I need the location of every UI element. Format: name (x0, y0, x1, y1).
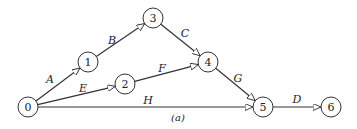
diagram-canvas: ABCEFGHD 0123456 (a) (0, 0, 357, 129)
node-6: 6 (321, 97, 341, 117)
node-4: 4 (198, 52, 218, 72)
edge-label: E (78, 82, 87, 95)
node-5: 5 (253, 97, 273, 117)
edge-label: D (292, 93, 302, 106)
network-diagram: ABCEFGHD 0123456 (a) (0, 0, 357, 129)
node-label: 1 (85, 56, 92, 69)
node-1: 1 (78, 52, 98, 72)
edge-e (38, 86, 116, 104)
node-label: 5 (260, 101, 267, 114)
diagram-caption: (a) (171, 112, 185, 123)
node-0: 0 (18, 97, 38, 117)
node-label: 0 (25, 101, 32, 114)
node-label: 4 (205, 56, 212, 69)
node-label: 3 (150, 12, 157, 25)
edge-f (135, 65, 199, 82)
node-label: 6 (328, 101, 335, 114)
edge-label: G (234, 72, 243, 85)
edge-label: A (45, 73, 54, 86)
edge-label: H (142, 94, 153, 107)
edge-label: B (107, 34, 116, 47)
edge-b (96, 24, 144, 57)
edge-label: F (157, 62, 166, 75)
edge-label: C (181, 27, 190, 40)
node-2: 2 (115, 74, 135, 94)
node-label: 2 (122, 78, 129, 91)
node-3: 3 (143, 8, 163, 28)
